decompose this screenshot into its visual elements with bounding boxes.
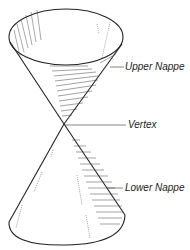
lower-nappe-label: Lower Nappe	[125, 182, 184, 193]
vertex-label: Vertex	[128, 119, 157, 130]
upper-nappe	[9, 9, 123, 124]
lower-nappe	[9, 124, 125, 245]
double-cone-diagram	[0, 0, 190, 250]
upper-nappe-label: Upper Nappe	[125, 61, 184, 72]
